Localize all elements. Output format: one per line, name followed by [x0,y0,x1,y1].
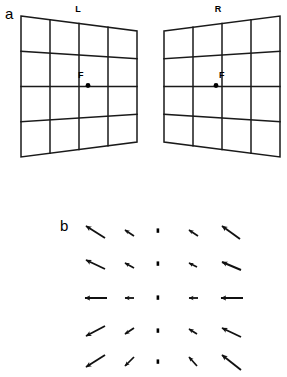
flow-arrow [125,357,134,366]
flow-arrow [222,355,241,370]
vector-field-row [86,326,241,337]
flow-arrow [189,329,197,334]
midline-dot [157,295,160,299]
left-eye-label: L [68,5,88,14]
panel-a-letter: a [5,6,13,21]
flow-arrow [222,262,241,270]
figure-canvas [0,0,287,377]
flow-arrow [189,230,198,236]
flow-arrow [86,260,105,269]
left-eye-fixation-dot [86,83,91,88]
flow-arrow [86,226,105,238]
flow-arrow [86,355,105,367]
panel-b-letter: b [60,218,68,233]
midline-dot [157,261,160,265]
flow-arrow [222,226,240,239]
figure-root: a b L R F F [0,0,287,377]
flow-arrow [125,263,134,268]
right-eye-grid [164,16,280,157]
flow-arrow [86,326,105,336]
vector-field-row [86,355,241,370]
midline-dot [157,228,160,232]
left-eye-grid [21,16,137,157]
flow-arrow [125,230,134,236]
vector-field-row [86,260,241,270]
flow-arrow [189,263,197,267]
right-eye-label: R [208,5,228,14]
flow-arrow [189,357,197,366]
vector-field-row [86,226,240,239]
right-eye-fixation-label: F [219,71,225,80]
flow-arrow [125,328,134,334]
right-eye-fixation-dot [214,83,219,88]
vector-field-midline [157,228,160,363]
flow-arrow [222,328,241,337]
midline-dot [157,328,160,332]
left-eye-fixation-label: F [78,71,84,80]
midline-dot [157,359,160,363]
